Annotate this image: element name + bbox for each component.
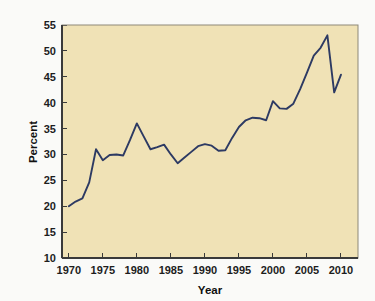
x-tick-label: 1990 [193,264,217,276]
y-tick-label: 10 [44,252,56,264]
chart-figure: 10152025303540455055 1970197519801985199… [0,0,375,301]
x-axis-title: Year [198,284,223,296]
plot-area-background [62,25,358,258]
x-tick-label: 1980 [125,264,149,276]
x-tick-label: 2000 [261,264,285,276]
y-tick-label: 15 [44,226,56,238]
y-tick-label: 25 [44,174,56,186]
line-chart: 10152025303540455055 1970197519801985199… [0,0,375,301]
x-tick-label: 1975 [91,264,115,276]
x-tick-label: 1995 [227,264,251,276]
y-tick-label: 35 [44,123,56,135]
x-tick-label: 1970 [57,264,81,276]
y-tick-label: 40 [44,97,56,109]
y-tick-label: 30 [44,148,56,160]
y-tick-label: 55 [44,19,56,31]
y-axis-title: Percent [27,121,39,163]
y-tick-label: 50 [44,45,56,57]
y-tick-label: 20 [44,200,56,212]
x-tick-label: 2005 [295,264,319,276]
x-tick-label: 1985 [159,264,183,276]
y-tick-label: 45 [44,71,56,83]
x-tick-label: 2010 [329,264,353,276]
